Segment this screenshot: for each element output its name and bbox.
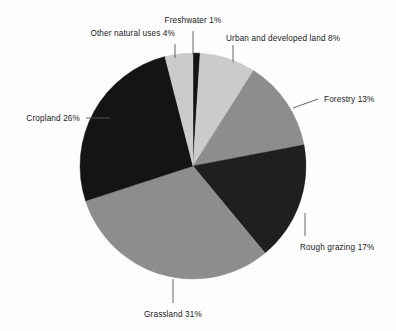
pie-label-cropland: Cropland 26%	[26, 114, 80, 123]
leader-line-forestry	[293, 99, 318, 108]
pie-label-grassland: Grassland 31%	[144, 310, 202, 319]
pie-slices-group	[80, 53, 306, 279]
pie-label-freshwater: Freshwater 1%	[164, 16, 221, 25]
pie-label-rough-grazing: Rough grazing 17%	[300, 243, 374, 252]
pie-chart-canvas: Freshwater 1% Urban and developed land 8…	[0, 0, 396, 331]
pie-chart-figure: Freshwater 1% Urban and developed land 8…	[0, 0, 396, 331]
pie-label-forestry: Forestry 13%	[324, 95, 375, 104]
pie-label-urban-and-developed-land: Urban and developed land 8%	[226, 34, 340, 43]
pie-label-other-natural-uses: Other natural uses 4%	[90, 29, 175, 38]
